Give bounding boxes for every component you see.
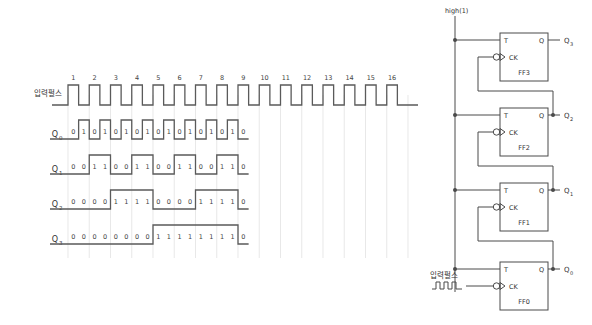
bit-value: 1: [146, 128, 150, 136]
bit-value: 0: [167, 198, 171, 206]
tick-number: 4: [135, 74, 139, 82]
bit-value: 1: [220, 163, 224, 171]
output-label-sub-FF1: 1: [570, 191, 573, 197]
clock-invert-bubble-FF3: [493, 54, 499, 60]
pin-t-FF0: T: [503, 266, 508, 274]
bit-value: 0: [82, 198, 86, 206]
bit-value: 0: [146, 233, 150, 241]
flipflop-FF1: TQCKFF1Q1: [453, 183, 573, 231]
bit-value: 0: [92, 233, 96, 241]
tick-number: 16: [388, 74, 396, 82]
flipflop-FF2: TQCKFF2Q2: [453, 108, 573, 156]
bit-value: 0: [199, 163, 203, 171]
bit-value: 1: [231, 198, 235, 206]
bit-value: 1: [231, 128, 235, 136]
bit-value: 0: [177, 198, 181, 206]
tick-number: 2: [92, 74, 96, 82]
supply-label: high(1): [445, 7, 468, 15]
clock-invert-bubble-FF1: [493, 204, 499, 210]
bus-junction-FF2: [453, 113, 457, 117]
pin-t-FF3: T: [503, 37, 508, 45]
bit-value: 0: [220, 128, 224, 136]
pin-ck-FF3: CK: [509, 54, 519, 62]
output-label-sub-FF2: 2: [570, 116, 573, 122]
bit-value: 0: [92, 128, 96, 136]
bit-value: 1: [188, 163, 192, 171]
waveform-label-Q2: Q: [52, 200, 58, 209]
waveform-label-Q1: Q: [52, 165, 58, 174]
bit-value: 0: [209, 163, 213, 171]
bit-value: 1: [199, 233, 203, 241]
bit-value: 0: [103, 233, 107, 241]
bit-value: 0: [199, 128, 203, 136]
bit-value: 0: [241, 128, 245, 136]
bit-value: 1: [220, 198, 224, 206]
bit-value: 1: [167, 233, 171, 241]
tick-number: 5: [156, 74, 160, 82]
bit-value: 0: [114, 163, 118, 171]
bit-value: 1: [177, 233, 181, 241]
tick-number: 6: [177, 74, 181, 82]
waveform-row-Q3: Q300000000111111110: [50, 225, 249, 246]
bit-value: 0: [71, 128, 75, 136]
input-pulse-icon: [432, 282, 462, 289]
figure-svg: 12345678910111213141516입력펄스Q001010101010…: [0, 0, 592, 325]
bit-value: 1: [135, 163, 139, 171]
bit-value: 0: [135, 233, 139, 241]
bus-junction-FF3: [453, 38, 457, 42]
tick-number: 1: [71, 74, 75, 82]
pin-ck-FF1: CK: [509, 204, 519, 212]
waveform-label-sub-Q3: 3: [59, 240, 63, 246]
bit-value: 1: [114, 198, 118, 206]
waveform-label-sub-Q2: 2: [59, 205, 63, 211]
waveform-label-Q3: Q: [52, 235, 58, 244]
tick-number: 10: [260, 74, 268, 82]
pin-t-FF2: T: [503, 112, 508, 120]
pin-ck-FF2: CK: [509, 129, 519, 137]
bit-value: 1: [231, 163, 235, 171]
bit-value: 1: [199, 198, 203, 206]
bit-value: 1: [209, 198, 213, 206]
bit-value: 1: [146, 198, 150, 206]
clock-edge-triangle-FF2: [500, 129, 505, 136]
waveform-row-Q0: Q001010101010101010: [50, 120, 249, 141]
bit-value: 0: [124, 163, 128, 171]
tick-number: 8: [220, 74, 224, 82]
flipflop-name-FF0: FF0: [518, 298, 530, 306]
flipflop-name-FF2: FF2: [518, 144, 530, 152]
clock-edge-triangle-FF0: [500, 283, 505, 290]
bit-value: 0: [177, 128, 181, 136]
bit-value: 1: [220, 233, 224, 241]
tick-number: 11: [282, 74, 290, 82]
bit-value: 1: [209, 128, 213, 136]
bit-value: 0: [156, 163, 160, 171]
clock-waveform: [52, 85, 418, 105]
bit-value: 1: [156, 233, 160, 241]
input-pulse-group: 입력펄스: [430, 271, 493, 289]
pin-q-FF1: Q: [539, 187, 544, 195]
bit-value: 1: [188, 128, 192, 136]
tick-number: 13: [324, 74, 332, 82]
tick-number: 9: [241, 74, 245, 82]
bit-value: 0: [114, 128, 118, 136]
output-label-sub-FF3: 3: [570, 41, 573, 47]
bit-value: 0: [124, 233, 128, 241]
bit-value: 0: [82, 163, 86, 171]
bit-value: 1: [103, 128, 107, 136]
pin-q-FF0: Q: [539, 266, 544, 274]
ripple-wire-0: [478, 207, 553, 269]
tick-number: 7: [199, 74, 203, 82]
schematic: high(1)TQCKFF3Q3TQCKFF2Q2TQCKFF1Q1TQCKFF…: [445, 7, 573, 310]
bit-value: 1: [167, 128, 171, 136]
tick-number: 14: [345, 74, 353, 82]
bit-value: 0: [241, 198, 245, 206]
tick-number: 15: [367, 74, 375, 82]
bit-value: 1: [135, 198, 139, 206]
bit-value: 1: [124, 198, 128, 206]
clock-invert-bubble-FF0: [493, 283, 499, 289]
bit-value: 0: [71, 163, 75, 171]
clock-tick-numbers: 12345678910111213141516: [71, 74, 396, 82]
bus-junction-FF1: [453, 188, 457, 192]
bit-value: 0: [114, 233, 118, 241]
output-label-sub-FF0: 0: [570, 270, 573, 276]
